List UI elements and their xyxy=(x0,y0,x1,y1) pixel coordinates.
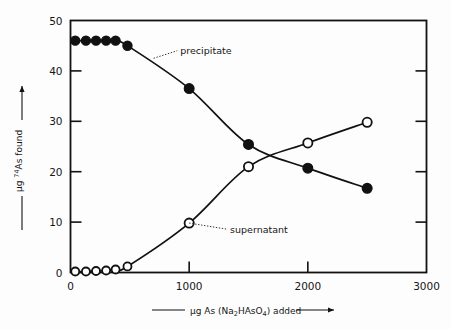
data-point-precipitate xyxy=(111,36,120,45)
annotation-precipitate: precipitate xyxy=(180,45,231,56)
data-point-supernatant xyxy=(303,138,312,147)
annotation-supernatant: supernatant xyxy=(230,224,288,235)
x-tick-label: 1000 xyxy=(176,280,203,292)
data-point-precipitate xyxy=(123,41,132,50)
y-axis-title: μg 74As found xyxy=(13,86,25,230)
data-point-supernatant xyxy=(92,267,100,275)
y-tick-label: 40 xyxy=(49,65,62,77)
x-tick-label: 3000 xyxy=(413,280,440,292)
x-axis-ticks xyxy=(189,262,308,273)
annotation-leader-lines xyxy=(154,51,228,230)
y-title-post: As found xyxy=(14,130,24,170)
x-title-mid: HAsO xyxy=(238,306,263,316)
x-tick-label: 2000 xyxy=(294,280,321,292)
data-point-supernatant xyxy=(363,118,372,127)
data-point-precipitate xyxy=(102,36,111,45)
series-line-precipitate xyxy=(75,40,367,188)
x-axis-title-text: μg As (Na2HAsO4) added xyxy=(190,306,301,319)
y-tick-label: 10 xyxy=(49,216,62,228)
data-point-precipitate xyxy=(303,163,313,173)
data-point-precipitate xyxy=(184,84,194,94)
y-axis-tick-labels: 01020304050 xyxy=(49,15,62,279)
data-point-supernatant xyxy=(71,267,79,275)
data-point-precipitate xyxy=(81,36,90,45)
data-point-supernatant xyxy=(123,262,131,270)
series-markers-precipitate xyxy=(71,36,372,193)
y-title-arrow-icon xyxy=(19,86,24,92)
y-tick-label: 0 xyxy=(56,267,63,279)
figure-container: 0100020003000 01020304050 precipitate su… xyxy=(0,0,451,329)
x-title-arrow-icon xyxy=(328,307,334,312)
data-point-precipitate xyxy=(91,36,100,45)
y-axis-ticks-right xyxy=(416,71,427,222)
data-point-supernatant xyxy=(102,266,110,274)
y-title-pre: μg xyxy=(14,178,24,192)
x-tick-label: 0 xyxy=(67,280,74,292)
y-tick-label: 30 xyxy=(49,115,62,127)
y-axis-ticks-left xyxy=(71,71,82,222)
y-title-sup: 74 xyxy=(13,169,21,177)
y-tick-label: 50 xyxy=(49,15,62,27)
y-axis-title-text: μg 74As found xyxy=(13,130,24,192)
y-tick-label: 20 xyxy=(49,166,62,178)
data-point-precipitate xyxy=(244,140,254,150)
data-point-supernatant xyxy=(244,162,253,171)
data-point-supernatant xyxy=(82,267,90,275)
data-point-supernatant xyxy=(112,265,120,273)
data-point-precipitate xyxy=(362,183,372,193)
x-axis-tick-labels: 0100020003000 xyxy=(67,280,440,292)
x-title-pre: μg As (Na xyxy=(190,306,234,316)
chart-canvas: 0100020003000 01020304050 precipitate su… xyxy=(0,0,451,329)
series-line-supernatant xyxy=(75,122,367,271)
data-point-precipitate xyxy=(71,36,80,45)
x-axis-title: μg As (Na2HAsO4) added xyxy=(152,306,334,319)
series-markers-supernatant xyxy=(71,118,372,276)
